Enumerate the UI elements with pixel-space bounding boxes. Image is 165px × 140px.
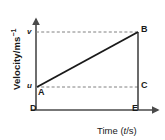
x-axis-title-prefix: Time ( — [97, 125, 124, 136]
y-tick-label-v: v — [27, 28, 31, 36]
y-axis-title-exponent: −1 — [10, 28, 17, 36]
point-label-a: A — [38, 88, 45, 97]
point-label-d: D — [30, 104, 37, 113]
point-label-e: E — [132, 104, 138, 113]
x-axis-title-suffix: /s) — [126, 125, 137, 136]
y-tick-label-u: u — [27, 82, 32, 90]
point-label-c: C — [141, 81, 148, 90]
graph-canvas — [0, 0, 165, 140]
x-axis-title: Time (t/s) — [97, 126, 137, 136]
velocity-time-graph-figure: Velocity/ms−1 Time (t/s) v u A B C D E — [0, 0, 165, 140]
point-label-b: B — [141, 25, 148, 34]
velocity-line-ab — [37, 32, 138, 87]
y-axis-title-text: Velocity/ms — [11, 37, 22, 90]
y-axis-title: Velocity/ms−1 — [2, 0, 14, 28]
